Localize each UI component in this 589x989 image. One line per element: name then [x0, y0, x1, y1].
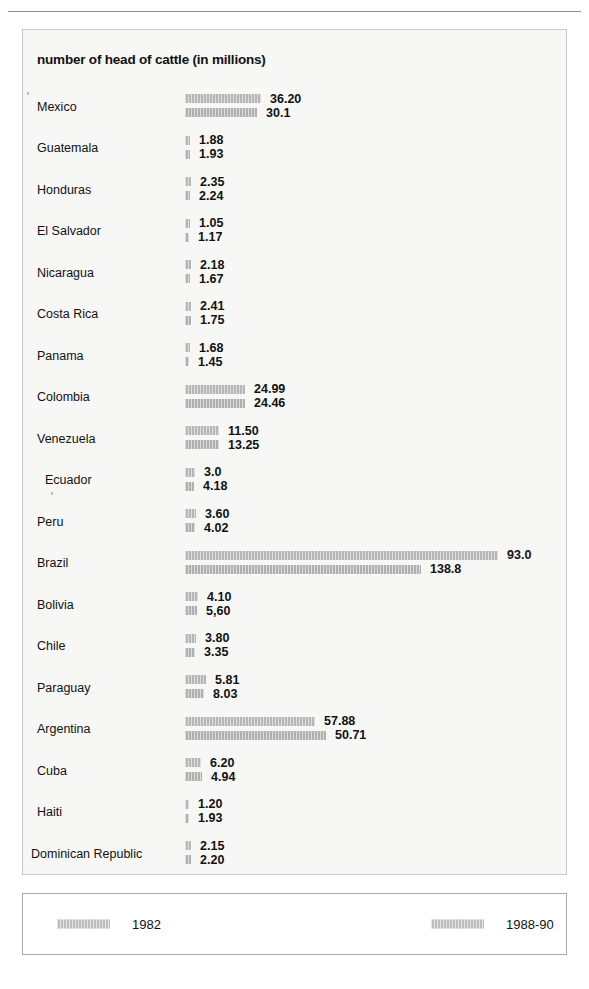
bar-1982	[185, 94, 261, 103]
scan-speck	[27, 92, 29, 95]
bar-group: 36.2030.1	[185, 86, 566, 128]
country-label: Panama	[23, 349, 173, 363]
country-label: Dominican Republic	[23, 847, 185, 861]
bar-value-label: 2.20	[200, 853, 224, 867]
country-label: Haiti	[23, 805, 173, 819]
bar-1982	[185, 551, 498, 560]
bar-value-label: 138.8	[430, 562, 461, 576]
country-label: Cuba	[23, 764, 173, 778]
bar-group: 2.181.67	[185, 252, 566, 294]
bar-1982	[185, 592, 198, 601]
bar-value-label: 2.24	[199, 189, 223, 203]
country-label: Colombia	[23, 390, 173, 404]
bar-value-label: 1.75	[200, 313, 224, 327]
bar-value-label: 3.35	[204, 645, 228, 659]
legend-label-1988-90: 1988-90	[506, 917, 554, 932]
bar-value-label: 3.60	[205, 507, 229, 521]
bar-group: 57.8850.71	[185, 709, 566, 751]
country-label: Brazil	[23, 556, 173, 570]
scan-speck	[51, 492, 53, 495]
bar-1988-90	[185, 855, 191, 864]
chart-rows: Mexico36.2030.1Guatemala1.881.93Honduras…	[23, 86, 566, 875]
bar-value-label: 11.50	[228, 424, 259, 438]
chart-row: Peru3.604.02	[23, 501, 566, 543]
chart-row: Mexico36.2030.1	[23, 86, 566, 128]
bar-group: 2.152.20	[185, 833, 566, 875]
bar-1988-90	[185, 689, 204, 698]
bar-group: 4.105,60	[185, 584, 566, 626]
bar-value-label: 1.17	[198, 230, 222, 244]
country-label: Ecuador	[23, 473, 173, 487]
bar-1988-90	[185, 523, 195, 532]
chart-row: Costa Rica2.411.75	[23, 294, 566, 336]
country-label: Mexico	[23, 100, 173, 114]
legend-swatch-1982	[57, 920, 110, 929]
bar-1982	[185, 758, 201, 767]
bar-value-label: 36.20	[270, 92, 301, 106]
bar-1988-90	[185, 357, 189, 366]
bar-group: 3.04.18	[185, 460, 566, 502]
bar-1982	[185, 177, 191, 186]
bar-value-label: 1.68	[199, 341, 223, 355]
bar-value-label: 24.46	[254, 396, 285, 410]
bar-1988-90	[185, 233, 189, 242]
bar-value-label: 2.18	[200, 258, 224, 272]
bar-1988-90	[185, 274, 190, 283]
bar-value-label: 24.99	[254, 382, 285, 396]
chart-row: Haiti1.201.93	[23, 792, 566, 834]
bar-1988-90	[185, 606, 197, 615]
chart-panel: number of head of cattle (in millions) M…	[22, 29, 567, 875]
bar-group: 1.881.93	[185, 128, 566, 170]
bar-1982	[185, 717, 315, 726]
bar-value-label: 93.0	[507, 548, 531, 562]
chart-row: Paraguay5.818.03	[23, 667, 566, 709]
bar-1982	[185, 675, 206, 684]
bar-value-label: 5.81	[215, 673, 239, 687]
country-label: Honduras	[23, 183, 173, 197]
bar-1988-90	[185, 191, 190, 200]
bar-value-label: 1.05	[199, 216, 223, 230]
bar-group: 1.201.93	[185, 792, 566, 834]
chart-row: Colombia24.9924.46	[23, 377, 566, 419]
chart-row: Ecuador3.04.18	[23, 460, 566, 502]
bar-value-label: 1.93	[199, 147, 223, 161]
bar-1982	[185, 841, 191, 850]
country-label: El Salvador	[23, 224, 173, 238]
bar-1982	[185, 800, 189, 809]
bar-group: 24.9924.46	[185, 377, 566, 419]
bar-value-label: 4.18	[203, 479, 227, 493]
country-label: Chile	[23, 639, 173, 653]
bar-1982	[185, 260, 191, 269]
bar-1982	[185, 219, 190, 228]
chart-row: Argentina57.8850.71	[23, 709, 566, 751]
bar-group: 1.681.45	[185, 335, 566, 377]
chart-row: Nicaragua2.181.67	[23, 252, 566, 294]
chart-row: Bolivia4.105,60	[23, 584, 566, 626]
bar-value-label: 13.25	[228, 438, 259, 452]
bar-value-label: 2.15	[200, 839, 224, 853]
bar-1988-90	[185, 648, 195, 657]
bar-value-label: 30.1	[266, 106, 290, 120]
bar-group: 5.818.03	[185, 667, 566, 709]
bar-1982	[185, 509, 196, 518]
bar-1988-90	[185, 814, 189, 823]
chart-row: Brazil93.0138.8	[23, 543, 566, 585]
bar-value-label: 57.88	[324, 714, 355, 728]
country-label: Venezuela	[23, 432, 173, 446]
bar-1982	[185, 136, 190, 145]
legend-swatch-1988-90	[431, 920, 484, 929]
bar-group: 11.5013.25	[185, 418, 566, 460]
chart-row: Cuba6.204.94	[23, 750, 566, 792]
bar-value-label: 5,60	[206, 604, 230, 618]
bar-group: 2.352.24	[185, 169, 566, 211]
bar-value-label: 1.93	[198, 811, 222, 825]
bar-1988-90	[185, 565, 421, 574]
country-label: Argentina	[23, 722, 173, 736]
bar-group: 93.0138.8	[185, 543, 566, 585]
bar-1988-90	[185, 316, 191, 325]
bar-1982	[185, 426, 219, 435]
chart-row: Venezuela11.5013.25	[23, 418, 566, 460]
bar-1982	[185, 343, 190, 352]
bar-value-label: 3.0	[204, 465, 221, 479]
country-label: Peru	[23, 515, 173, 529]
